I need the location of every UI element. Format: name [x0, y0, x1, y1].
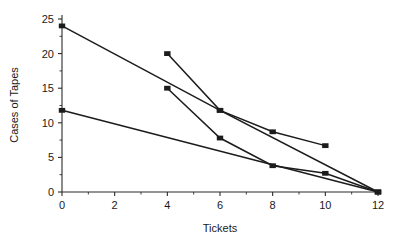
- x-axis-tick-labels: 024681012: [59, 199, 384, 211]
- y-axis-tick-labels: 0510152025: [42, 13, 54, 198]
- data-point-marker: [217, 136, 223, 141]
- x-tick-label: 4: [164, 199, 170, 211]
- y-tick-label: 20: [42, 48, 54, 60]
- data-series-group: [59, 24, 381, 195]
- x-axis-title: Tickets: [203, 222, 238, 234]
- y-tick-label: 25: [42, 13, 54, 25]
- data-point-marker: [59, 108, 65, 113]
- series-line-3: [167, 54, 378, 192]
- x-tick-label: 10: [319, 199, 331, 211]
- data-point-marker: [217, 108, 223, 113]
- data-point-marker: [269, 129, 275, 134]
- chart-container: 0510152025 024681012 Tickets Cases of Ta…: [0, 0, 407, 238]
- x-tick-label: 6: [217, 199, 223, 211]
- data-point-marker: [164, 86, 170, 91]
- y-axis: [58, 15, 62, 192]
- data-point-marker: [164, 51, 170, 56]
- y-tick-label: 10: [42, 117, 54, 129]
- series-line-1: [62, 26, 325, 146]
- series-line-2: [62, 110, 378, 192]
- line-chart: 0510152025 024681012 Tickets Cases of Ta…: [0, 0, 407, 238]
- x-tick-label: 2: [112, 199, 118, 211]
- y-axis-title: Cases of Tapes: [8, 67, 20, 143]
- x-tick-label: 8: [270, 199, 276, 211]
- data-point-marker: [375, 190, 381, 195]
- data-point-marker: [322, 143, 328, 148]
- data-point-marker: [269, 163, 275, 168]
- y-tick-label: 15: [42, 82, 54, 94]
- x-tick-label: 0: [59, 199, 65, 211]
- x-axis: [62, 192, 381, 196]
- data-point-marker: [322, 171, 328, 176]
- x-tick-label: 12: [372, 199, 384, 211]
- y-tick-label: 5: [48, 151, 54, 163]
- data-point-marker: [59, 24, 65, 29]
- y-tick-label: 0: [48, 186, 54, 198]
